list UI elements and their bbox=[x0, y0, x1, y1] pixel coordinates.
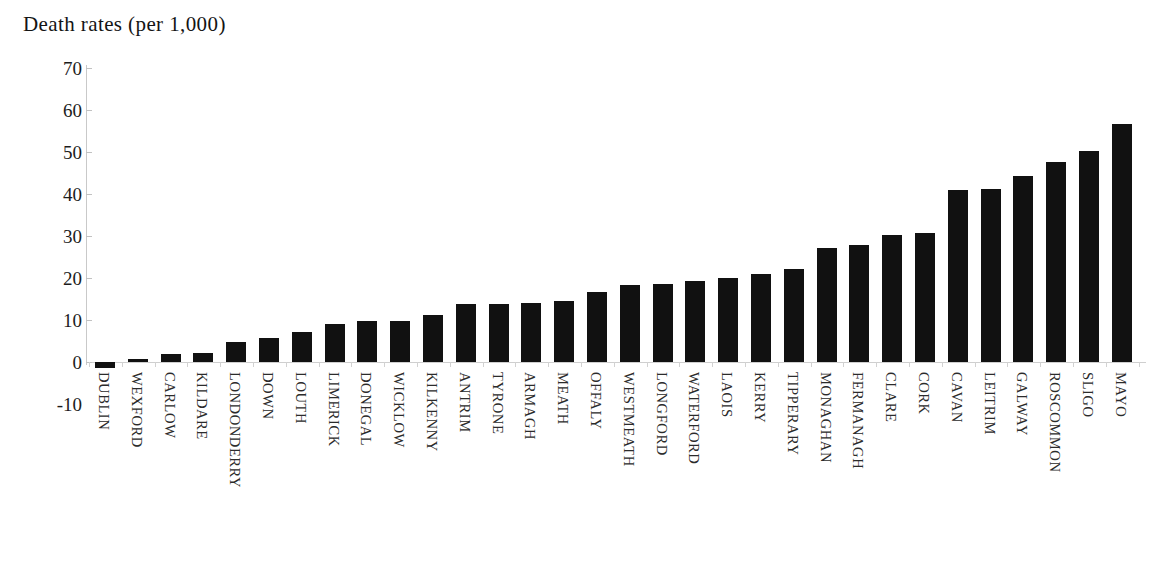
y-tick-mark bbox=[86, 236, 92, 237]
x-tick-mark bbox=[1139, 362, 1140, 367]
x-tick-mark bbox=[220, 362, 221, 367]
x-label-tipperary: TIPPERARY bbox=[785, 372, 800, 456]
x-label-kildare: KILDARE bbox=[195, 372, 210, 440]
x-label-galway: GALWAY bbox=[1015, 372, 1030, 436]
x-label-monaghan: MONAGHAN bbox=[818, 372, 833, 463]
x-tick-mark bbox=[1106, 362, 1107, 367]
x-label-cork: CORK bbox=[917, 372, 932, 415]
bar-leitrim bbox=[981, 189, 1001, 362]
y-tick-label: 50 bbox=[30, 143, 82, 162]
y-tick-mark bbox=[86, 110, 92, 111]
y-tick-mark bbox=[86, 194, 92, 195]
x-label-londonderry: LONDONDERRY bbox=[228, 372, 243, 488]
y-tick-label: 10 bbox=[30, 311, 82, 330]
x-tick-mark bbox=[679, 362, 680, 367]
x-label-armagh: ARMAGH bbox=[523, 372, 538, 440]
bar-galway bbox=[1013, 176, 1033, 362]
x-label-longford: LONGFORD bbox=[654, 372, 669, 456]
x-tick-mark bbox=[581, 362, 582, 367]
bar-roscommon bbox=[1046, 162, 1066, 362]
x-tick-mark bbox=[975, 362, 976, 367]
y-tick-label: 40 bbox=[30, 185, 82, 204]
x-label-offaly: OFFALY bbox=[589, 372, 604, 429]
bar-louth bbox=[292, 332, 312, 362]
x-tick-mark bbox=[450, 362, 451, 367]
bar-kildare bbox=[193, 353, 213, 362]
bar-offaly bbox=[587, 292, 607, 362]
x-tick-mark bbox=[811, 362, 812, 367]
x-tick-mark bbox=[614, 362, 615, 367]
x-label-antrim: ANTRIM bbox=[457, 372, 472, 433]
x-label-wexford: WEXFORD bbox=[129, 372, 144, 448]
x-label-wicklow: WICKLOW bbox=[392, 372, 407, 448]
x-tick-mark bbox=[1040, 362, 1041, 367]
bar-longford bbox=[653, 284, 673, 362]
x-label-kerry: KERRY bbox=[753, 372, 768, 423]
x-tick-mark bbox=[942, 362, 943, 367]
bar-waterford bbox=[685, 281, 705, 362]
x-tick-mark bbox=[122, 362, 123, 367]
y-tick-mark bbox=[86, 278, 92, 279]
y-tick-label: 20 bbox=[30, 269, 82, 288]
bar-clare bbox=[882, 235, 902, 362]
x-label-fermanagh: FERMANAGH bbox=[851, 372, 866, 469]
x-label-cavan: CAVAN bbox=[949, 372, 964, 423]
bar-antrim bbox=[456, 304, 476, 362]
x-label-laois: LAOIS bbox=[720, 372, 735, 418]
x-tick-mark bbox=[745, 362, 746, 367]
x-label-louth: LOUTH bbox=[293, 372, 308, 424]
bar-tipperary bbox=[784, 269, 804, 362]
x-tick-mark bbox=[155, 362, 156, 367]
x-label-kilkenny: KILKENNY bbox=[425, 372, 440, 452]
bar-down bbox=[259, 338, 279, 362]
x-label-carlow: CARLOW bbox=[162, 372, 177, 438]
x-tick-mark bbox=[515, 362, 516, 367]
bar-westmeath bbox=[620, 285, 640, 362]
bar-cavan bbox=[948, 190, 968, 362]
x-label-roscommon: ROSCOMMON bbox=[1048, 372, 1063, 472]
bar-cork bbox=[915, 233, 935, 362]
x-tick-mark bbox=[1007, 362, 1008, 367]
y-tick-label: 60 bbox=[30, 101, 82, 120]
x-tick-mark bbox=[89, 362, 90, 367]
y-tick-mark bbox=[86, 152, 92, 153]
bar-donegal bbox=[357, 321, 377, 362]
x-label-sligo: SLIGO bbox=[1081, 372, 1096, 418]
bar-carlow bbox=[161, 354, 181, 362]
x-tick-mark bbox=[778, 362, 779, 367]
x-tick-mark bbox=[843, 362, 844, 367]
bar-tyrone bbox=[489, 304, 509, 362]
x-label-dublin: DUBLIN bbox=[97, 372, 112, 430]
x-label-leitrim: LEITRIM bbox=[982, 372, 997, 435]
bar-mayo bbox=[1112, 124, 1132, 362]
y-tick-label: -10 bbox=[30, 395, 82, 414]
x-tick-mark bbox=[253, 362, 254, 367]
x-tick-mark bbox=[876, 362, 877, 367]
y-tick-label: 0 bbox=[30, 353, 82, 372]
x-label-tyrone: TYRONE bbox=[490, 372, 505, 434]
x-tick-mark bbox=[319, 362, 320, 367]
x-axis-line bbox=[86, 362, 1146, 363]
bar-kerry bbox=[751, 274, 771, 362]
bar-meath bbox=[554, 301, 574, 362]
x-label-waterford: WATERFORD bbox=[687, 372, 702, 464]
bar-armagh bbox=[521, 303, 541, 362]
x-label-limerick: LIMERICK bbox=[326, 372, 341, 447]
x-tick-mark bbox=[351, 362, 352, 367]
bar-sligo bbox=[1079, 151, 1099, 362]
x-tick-mark bbox=[417, 362, 418, 367]
x-label-westmeath: WESTMEATH bbox=[621, 372, 636, 467]
x-tick-mark bbox=[909, 362, 910, 367]
y-tick-label: 30 bbox=[30, 227, 82, 246]
x-label-down: DOWN bbox=[261, 372, 276, 420]
bar-wexford bbox=[128, 359, 148, 362]
x-label-mayo: MAYO bbox=[1113, 372, 1128, 417]
bar-kilkenny bbox=[423, 315, 443, 362]
x-tick-mark bbox=[647, 362, 648, 367]
x-label-donegal: DONEGAL bbox=[359, 372, 374, 446]
x-label-meath: MEATH bbox=[556, 372, 571, 425]
x-label-clare: CLARE bbox=[884, 372, 899, 423]
plot-area: 706050403020100-10 DUBLINWEXFORDCARLOWKI… bbox=[0, 0, 1161, 420]
y-tick-mark bbox=[86, 68, 92, 69]
y-tick-label: 70 bbox=[30, 59, 82, 78]
